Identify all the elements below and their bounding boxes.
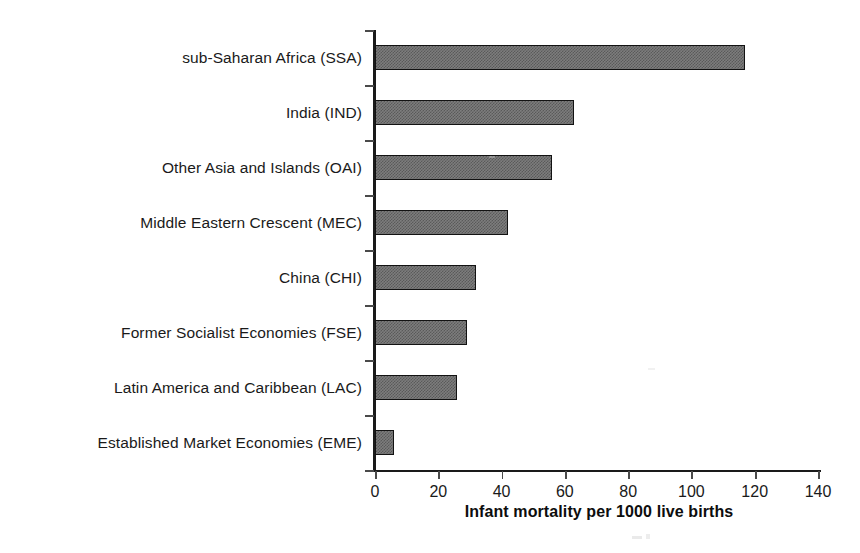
- x-axis-tick: [565, 471, 567, 479]
- bar: [375, 45, 745, 70]
- y-axis-tick: [365, 30, 374, 32]
- x-axis-tick: [628, 471, 630, 479]
- y-axis-tick: [365, 250, 374, 252]
- y-axis-tick: [365, 470, 374, 472]
- y-axis-tick: [365, 360, 374, 362]
- scan-speckle: [646, 534, 650, 539]
- bar: [375, 100, 574, 125]
- x-axis-tick-label: 0: [371, 482, 380, 501]
- bar-chart: sub-Saharan Africa (SSA)India (IND)Other…: [0, 0, 860, 553]
- x-axis-tick: [375, 471, 377, 479]
- x-axis-tick: [755, 471, 757, 479]
- x-axis-tick: [691, 471, 693, 479]
- plot-area: 020406080100120140: [375, 30, 820, 470]
- bar: [375, 210, 508, 235]
- x-axis-tick-label: 100: [678, 482, 705, 501]
- bar: [375, 320, 467, 345]
- category-label: Established Market Economies (EME): [0, 434, 362, 452]
- x-axis-tick: [438, 471, 440, 479]
- category-axis-labels: sub-Saharan Africa (SSA)India (IND)Other…: [0, 30, 362, 470]
- bar: [375, 430, 394, 455]
- category-label: China (CHI): [0, 269, 362, 287]
- y-axis-tick: [365, 140, 374, 142]
- category-label: Latin America and Caribbean (LAC): [0, 379, 362, 397]
- y-axis-tick: [365, 195, 374, 197]
- bar: [375, 155, 552, 180]
- scan-speckle: [632, 536, 642, 539]
- category-label: sub-Saharan Africa (SSA): [0, 49, 362, 67]
- x-axis-tick-label: 120: [741, 482, 768, 501]
- x-axis-title: Infant mortality per 1000 live births: [375, 503, 823, 521]
- x-axis-tick-label: 80: [619, 482, 637, 501]
- category-label: Middle Eastern Crescent (MEC): [0, 214, 362, 232]
- category-label: Other Asia and Islands (OAI): [0, 159, 362, 177]
- y-axis-tick: [365, 415, 374, 417]
- x-axis-tick-label: 20: [429, 482, 447, 501]
- y-axis-tick: [365, 85, 374, 87]
- x-axis-tick: [502, 471, 504, 479]
- category-label: India (IND): [0, 104, 362, 122]
- x-axis-tick-label: 40: [493, 482, 511, 501]
- category-label: Former Socialist Economies (FSE): [0, 324, 362, 342]
- y-axis-tick: [365, 305, 374, 307]
- x-axis-tick-label: 140: [805, 482, 832, 501]
- x-axis-tick-label: 60: [556, 482, 574, 501]
- bar: [375, 375, 457, 400]
- bar: [375, 265, 476, 290]
- x-axis-tick: [818, 471, 820, 479]
